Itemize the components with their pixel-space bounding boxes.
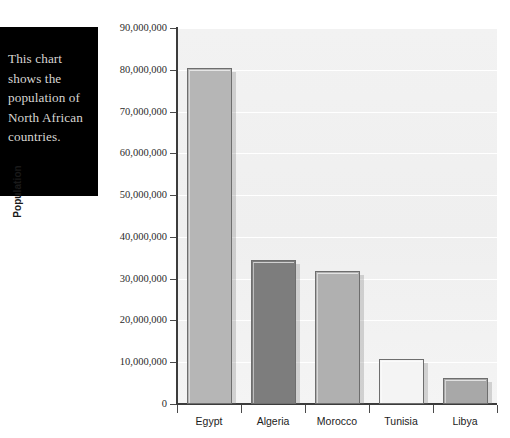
y-axis-tick <box>170 279 176 280</box>
y-axis-tick-label: 60,000,000 <box>67 147 167 158</box>
x-axis-tick <box>497 405 498 413</box>
x-axis-tick <box>177 405 178 413</box>
y-axis-line <box>176 27 178 405</box>
y-axis-tick-label: 80,000,000 <box>67 64 167 75</box>
x-axis-label-libya: Libya <box>433 415 497 427</box>
x-axis-tick <box>241 405 242 413</box>
y-axis-tick <box>170 320 176 321</box>
x-axis-label-morocco: Morocco <box>305 415 369 427</box>
y-axis-tick-label: 50,000,000 <box>67 189 167 200</box>
x-axis-tick <box>369 405 370 413</box>
y-axis-tick <box>170 404 176 405</box>
bar-highlight <box>445 380 486 403</box>
y-axis-tick-label: 30,000,000 <box>67 273 167 284</box>
y-axis-tick <box>170 153 176 154</box>
x-axis-tick <box>305 405 306 413</box>
y-axis-tick <box>170 195 176 196</box>
y-axis-tick-label: 90,000,000 <box>67 22 167 33</box>
y-axis-tick-label: 0 <box>67 398 167 409</box>
bar-highlight <box>253 262 294 403</box>
population-bar-chart: Population 010,000,00020,000,00030,000,0… <box>0 0 510 438</box>
bar-highlight <box>317 273 358 403</box>
y-axis-tick <box>170 237 176 238</box>
y-axis-tick-label: 70,000,000 <box>67 106 167 117</box>
y-axis-tick-label: 10,000,000 <box>67 356 167 367</box>
x-axis-label-tunisia: Tunisia <box>369 415 433 427</box>
bar-libya[interactable] <box>443 378 488 404</box>
y-axis-tick <box>170 70 176 71</box>
bar-highlight <box>189 70 230 403</box>
y-axis-tick-label: 40,000,000 <box>67 231 167 242</box>
x-axis-label-egypt: Egypt <box>177 415 241 427</box>
gridline <box>177 28 497 29</box>
bar-highlight <box>381 361 422 403</box>
x-axis-label-algeria: Algeria <box>241 415 305 427</box>
y-axis-tick <box>170 28 176 29</box>
y-axis-tick-label: 20,000,000 <box>67 314 167 325</box>
bar-morocco[interactable] <box>315 271 360 404</box>
y-axis-tick <box>170 112 176 113</box>
bar-algeria[interactable] <box>251 260 296 404</box>
y-axis-title: Population <box>12 152 23 232</box>
y-axis-tick <box>170 362 176 363</box>
x-axis-tick <box>433 405 434 413</box>
bar-egypt[interactable] <box>187 68 232 404</box>
bar-tunisia[interactable] <box>379 359 424 404</box>
